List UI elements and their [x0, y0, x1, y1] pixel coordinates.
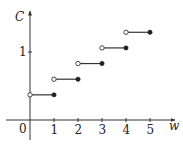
- open-endpoint: [76, 61, 80, 65]
- x-ticks: 12345: [51, 118, 155, 137]
- closed-endpoint: [148, 30, 152, 34]
- origin-label: 0: [19, 122, 27, 136]
- closed-endpoint: [100, 61, 104, 65]
- x-tick-label: 3: [99, 123, 107, 137]
- open-endpoint: [28, 93, 32, 97]
- y-tick-label: 1: [19, 45, 27, 59]
- closed-endpoint: [76, 77, 80, 81]
- open-endpoint: [124, 30, 128, 34]
- x-tick-label: 4: [123, 123, 131, 137]
- step-chart: 12345 1 0 w C: [0, 0, 183, 148]
- closed-endpoint: [52, 93, 56, 97]
- y-axis-label: C: [15, 10, 24, 24]
- x-tick-label: 2: [75, 123, 83, 137]
- closed-endpoint: [124, 46, 128, 50]
- x-tick-label: 5: [147, 123, 155, 137]
- open-endpoint: [52, 77, 56, 81]
- x-axis-label: w: [169, 119, 180, 133]
- step-segments: [28, 30, 152, 97]
- open-endpoint: [100, 46, 104, 50]
- x-tick-label: 1: [51, 123, 59, 137]
